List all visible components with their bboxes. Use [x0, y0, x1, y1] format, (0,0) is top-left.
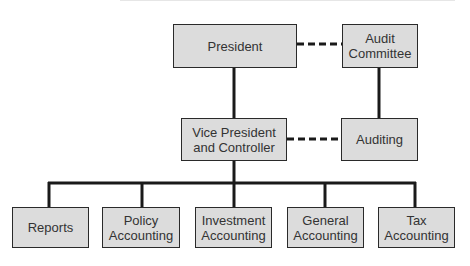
- node-label: General Accounting: [293, 213, 357, 243]
- node-label: Auditing: [356, 132, 403, 147]
- node-reports: Reports: [12, 207, 89, 248]
- node-investment-accounting: Investment Accounting: [195, 207, 272, 248]
- node-label: Tax Accounting: [384, 213, 448, 243]
- node-auditing: Auditing: [341, 118, 418, 161]
- node-audit-committee: Audit Committee: [342, 24, 418, 68]
- node-label: Policy Accounting: [109, 213, 173, 243]
- node-president: President: [173, 24, 297, 68]
- node-tax-accounting: Tax Accounting: [378, 207, 455, 248]
- node-label: Audit Committee: [349, 31, 412, 61]
- node-vp-controller: Vice President and Controller: [181, 118, 287, 161]
- node-label: Reports: [28, 220, 74, 235]
- node-label: Vice President and Controller: [192, 125, 276, 155]
- node-label: Investment Accounting: [201, 213, 265, 243]
- node-label: President: [208, 39, 263, 54]
- node-general-accounting: General Accounting: [287, 207, 364, 248]
- node-policy-accounting: Policy Accounting: [102, 207, 180, 248]
